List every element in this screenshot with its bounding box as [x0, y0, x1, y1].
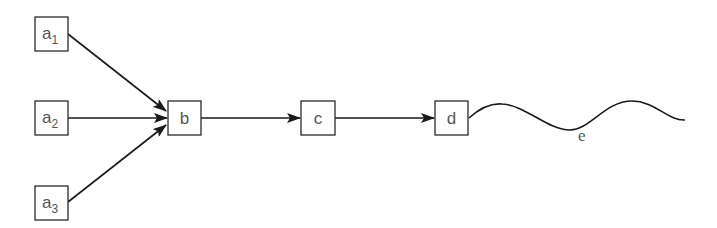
node-c: c	[301, 101, 335, 135]
node-a3: a3	[35, 186, 68, 220]
node-c-label: c	[314, 109, 323, 128]
edge-a3-to-b	[68, 125, 166, 202]
edge-a1-to-b	[68, 34, 166, 111]
flow-diagram: e a1 a2 a3 b c d	[0, 0, 717, 228]
wave-label-e: e	[578, 126, 586, 145]
node-b: b	[168, 101, 201, 135]
node-a1: a1	[35, 17, 68, 51]
node-a1-subscript: 1	[51, 33, 58, 47]
node-a2-subscript: 2	[51, 117, 58, 131]
node-d: d	[435, 101, 468, 135]
wave-e	[469, 101, 685, 130]
node-a2: a2	[35, 101, 68, 135]
node-a3-subscript: 3	[51, 202, 58, 216]
node-d-label: d	[447, 109, 456, 128]
node-b-label: b	[180, 109, 189, 128]
